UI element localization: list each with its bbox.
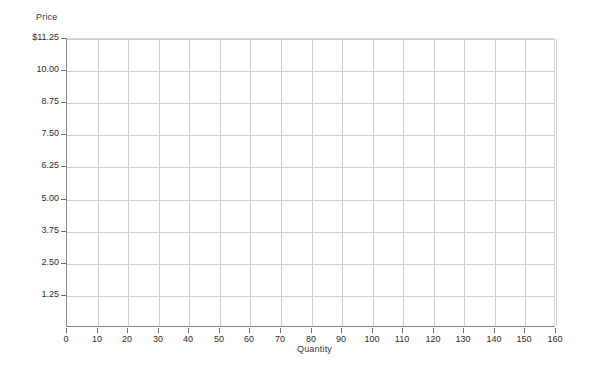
gridline-vertical (159, 39, 160, 326)
gridline-horizontal (67, 232, 554, 233)
plot-area (66, 38, 555, 327)
x-axis-tick (402, 328, 403, 333)
y-axis-tick-label: 6.25 (1, 160, 59, 170)
x-axis-tick (433, 328, 434, 333)
y-axis-tick (61, 38, 66, 39)
x-axis-tick (188, 328, 189, 333)
y-axis-tick (61, 199, 66, 200)
y-axis-tick-label: 1.25 (1, 289, 59, 299)
gridline-vertical (342, 39, 343, 326)
gridline-vertical (403, 39, 404, 326)
y-axis-tick (61, 134, 66, 135)
gridline-vertical (464, 39, 465, 326)
x-axis-tick (341, 328, 342, 333)
gridline-vertical (556, 39, 557, 326)
price-quantity-chart: Price Quantity 1.252.503.755.006.257.508… (0, 0, 593, 377)
x-axis-tick (249, 328, 250, 333)
x-axis-tick-label: 160 (535, 334, 575, 344)
gridline-horizontal (67, 200, 554, 201)
gridline-vertical (98, 39, 99, 326)
y-axis-tick (61, 295, 66, 296)
gridline-horizontal (67, 103, 554, 104)
gridline-vertical (495, 39, 496, 326)
y-axis-tick-label: 10.00 (1, 64, 59, 74)
x-axis-tick (372, 328, 373, 333)
gridline-vertical (250, 39, 251, 326)
x-axis-tick (463, 328, 464, 333)
gridline-vertical (189, 39, 190, 326)
x-axis-title: Quantity (297, 344, 332, 354)
gridline-vertical (373, 39, 374, 326)
y-axis-tick (61, 231, 66, 232)
gridline-horizontal (67, 264, 554, 265)
y-axis-tick (61, 102, 66, 103)
y-axis-tick-label: 7.50 (1, 128, 59, 138)
gridline-vertical (220, 39, 221, 326)
y-axis-tick (61, 166, 66, 167)
gridline-horizontal (67, 167, 554, 168)
x-axis-tick (219, 328, 220, 333)
gridline-horizontal (67, 296, 554, 297)
y-axis-tick (61, 263, 66, 264)
gridline-vertical (434, 39, 435, 326)
y-axis-tick (61, 70, 66, 71)
x-axis-tick (97, 328, 98, 333)
gridline-horizontal (67, 39, 554, 40)
x-axis-title-container: Quantity (0, 344, 593, 354)
y-axis-tick-label: 3.75 (1, 225, 59, 235)
x-axis-tick (524, 328, 525, 333)
y-axis-tick-label: 5.00 (1, 193, 59, 203)
x-axis-tick (311, 328, 312, 333)
gridline-vertical (525, 39, 526, 326)
gridline-horizontal (67, 71, 554, 72)
gridline-vertical (312, 39, 313, 326)
y-axis-tick-label: 2.50 (1, 257, 59, 267)
x-axis-tick (127, 328, 128, 333)
x-axis-tick (158, 328, 159, 333)
x-axis-tick (555, 328, 556, 333)
x-axis-tick (66, 328, 67, 333)
y-axis-tick-label: 8.75 (1, 96, 59, 106)
gridline-horizontal (67, 135, 554, 136)
gridline-vertical (128, 39, 129, 326)
y-axis-tick-label: $11.25 (1, 32, 59, 42)
y-axis-title: Price (36, 12, 58, 22)
gridline-vertical (281, 39, 282, 326)
x-axis-tick (280, 328, 281, 333)
x-axis-tick (494, 328, 495, 333)
